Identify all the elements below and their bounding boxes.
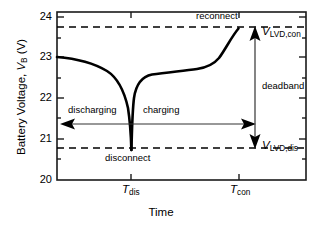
chart-figure: 24 23 22 21 20 Battery Voltage, VB (V) T… — [0, 0, 322, 227]
annotation-deadband: deadband — [262, 81, 304, 91]
x-axis-title: Time — [0, 207, 322, 219]
ytick-label-24: 24 — [30, 11, 52, 22]
annotation-charging: charging — [143, 105, 179, 115]
vlvd-con-symbol: V — [262, 25, 270, 37]
y-axis-title-subscript: B — [20, 57, 29, 63]
ytick-label-20: 20 — [30, 174, 52, 185]
y-axis-title-unit: (V) — [15, 39, 27, 58]
vlvd-dis-symbol: V — [262, 139, 270, 151]
annotation-discharging: discharging — [68, 105, 117, 115]
annotation-disconnect: disconnect — [105, 153, 150, 163]
xtick-label-tcon: Tcon — [230, 184, 250, 197]
annotation-reconnect: reconnect — [196, 11, 238, 21]
ytick-label-21: 21 — [30, 133, 52, 144]
ytick-label-23: 23 — [30, 51, 52, 62]
y-axis-title-symbol: V — [15, 63, 27, 71]
vlvd-dis-subscript: LVD,dis — [270, 144, 298, 153]
label-vlvd-dis: VLVD,dis — [262, 140, 298, 153]
vlvd-con-subscript: LVD,con — [270, 30, 301, 39]
xtick-tdis-symbol: T — [122, 183, 129, 195]
xtick-tdis-subscript: dis — [129, 188, 140, 197]
xtick-label-tdis: Tdis — [122, 184, 140, 197]
y-axis-title: Battery Voltage, VB (V) — [15, 17, 29, 177]
xtick-tcon-symbol: T — [230, 183, 237, 195]
xtick-tcon-subscript: con — [237, 188, 250, 197]
ytick-label-22: 22 — [30, 92, 52, 103]
label-vlvd-con: VLVD,con — [262, 26, 301, 39]
y-axis-title-main: Battery Voltage, — [15, 71, 27, 155]
